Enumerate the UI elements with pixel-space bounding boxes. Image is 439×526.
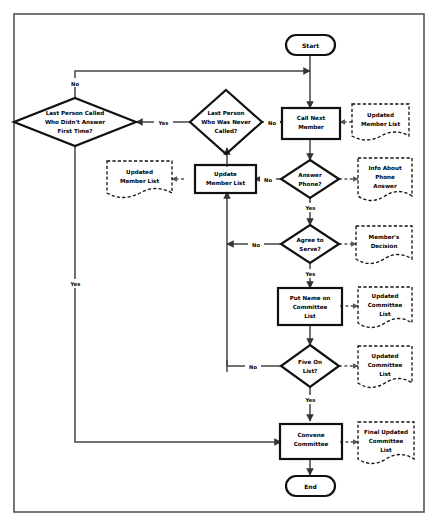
doc-6-line-1: Updated (372, 353, 399, 360)
terminator-end-label: End (304, 483, 317, 490)
edge-label-yes-between-diamonds: Yes (158, 120, 169, 126)
decision-1-line-2: Who Didn't Answer (45, 119, 105, 125)
edge-label-no-top-left: No (71, 81, 79, 87)
process-put-name-line-2: Committee (293, 304, 328, 310)
process-put-name-on-committee-list[interactable]: Put Name on Committee List (278, 288, 342, 325)
document-members-decision[interactable]: Member's Decision (356, 226, 412, 264)
edge-label-yes-left-return: Yes (70, 281, 81, 287)
process-update-member-list[interactable]: Update Member List (195, 165, 256, 193)
decision-2-line-3: Called? (215, 128, 238, 134)
doc-5-line-2: Committee (368, 302, 403, 308)
doc-2-line-1: Updated (126, 169, 153, 176)
process-put-name-line-1: Put Name on (290, 295, 331, 301)
doc-4-line-2: Decision (371, 243, 398, 249)
decision-5-line-1: Five On (298, 359, 322, 365)
decision-2-line-2: Who Was Never (201, 119, 251, 125)
process-call-next-member-line-2: Member (298, 124, 324, 130)
decision-last-person-who-was-never-called[interactable]: Last Person Who Was Never Called? (190, 90, 262, 154)
edge-label-yes-agree-to-serve: Yes (305, 271, 316, 277)
doc-7-line-1: Final Updated (364, 429, 408, 436)
doc-4-line-1: Member's (369, 234, 400, 240)
edge-label-no-agree-to-serve: No (252, 242, 260, 248)
doc-1-line-1: Updated (367, 112, 394, 119)
decision-2-line-1: Last Person (207, 110, 244, 116)
doc-7-line-2: Committee (369, 438, 404, 444)
process-update-member-list-line-2: Member List (206, 180, 246, 186)
decision-last-person-called-who-didnt-answer-first-time[interactable]: Last Person Called Who Didn't Answer Fir… (14, 98, 136, 146)
decision-4-line-2: Serve? (299, 246, 320, 252)
doc-2-line-2: Member List (120, 178, 160, 184)
decision-five-on-list[interactable]: Five On List? (281, 345, 339, 387)
edge-label-no-answer-phone: No (264, 177, 272, 183)
decision-5-line-2: List? (303, 368, 318, 374)
document-updated-member-list-left[interactable]: Updated Member List (107, 161, 172, 198)
terminator-end[interactable]: End (286, 476, 335, 496)
doc-5-line-3: List (379, 311, 391, 317)
doc-3-line-2: Phone (375, 174, 395, 180)
decision-answer-phone[interactable]: Answer Phone? (281, 160, 339, 198)
process-convene-committee-line-1: Convene (297, 432, 324, 438)
edge-label-yes-five-on-list: Yes (305, 397, 316, 403)
doc-5-line-1: Updated (372, 293, 399, 300)
process-update-member-list-line-1: Update (214, 171, 237, 178)
document-updated-member-list-right[interactable]: Updated Member List (352, 104, 409, 140)
document-updated-committee-list-bottom[interactable]: Updated Committee List (358, 346, 412, 388)
connector-no-top-return (75, 71, 310, 98)
process-call-next-member-line-1: Call Next (297, 115, 326, 121)
document-final-updated-committee-list[interactable]: Final Updated Committee List (358, 422, 414, 464)
doc-3-line-3: Answer (373, 183, 397, 189)
edge-label-no-five-on-list: No (249, 364, 257, 370)
doc-6-line-2: Committee (368, 362, 403, 368)
connector-yes-left-return (75, 146, 281, 442)
decision-3-line-1: Answer (298, 172, 322, 178)
document-info-about-phone-answer[interactable]: Info About Phone Answer (358, 158, 412, 201)
doc-1-line-2: Member List (361, 121, 401, 127)
process-call-next-member[interactable]: Call Next Member (282, 108, 340, 139)
doc-6-line-3: List (379, 371, 391, 377)
terminator-start-label: Start (302, 42, 319, 49)
decision-agree-to-serve[interactable]: Agree to Serve? (281, 225, 339, 263)
edge-label-no-never-called: No (268, 120, 276, 126)
terminator-start[interactable]: Start (286, 35, 335, 55)
process-convene-committee[interactable]: Convene Committee (280, 424, 342, 459)
process-convene-committee-line-2: Committee (294, 441, 329, 447)
doc-7-line-3: List (380, 447, 392, 453)
doc-3-line-1: Info About (368, 165, 401, 171)
decision-4-line-1: Agree to (296, 237, 323, 244)
process-put-name-line-3: List (304, 313, 316, 319)
decision-3-line-2: Phone? (299, 181, 322, 187)
decision-1-line-1: Last Person Called (46, 110, 105, 116)
flowchart-canvas: Start End Call Next Member Update Member… (0, 0, 439, 526)
decision-1-line-3: First Time? (57, 128, 92, 134)
edge-label-yes-answer-phone: Yes (305, 205, 316, 211)
document-updated-committee-list-top[interactable]: Updated Committee List (358, 287, 412, 328)
